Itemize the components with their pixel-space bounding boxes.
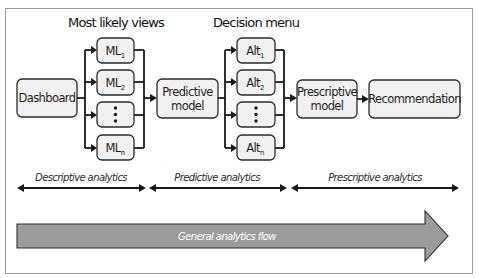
alt-option-1: Alt1 bbox=[237, 38, 275, 63]
alt-option-2-label: Alt bbox=[246, 76, 261, 90]
ml-view-2-label: ML bbox=[106, 76, 122, 90]
dashboard-node: Dashboard bbox=[17, 79, 77, 117]
predictive-model-label-line1: Predictive bbox=[162, 85, 213, 99]
ml-view-n-label: ML bbox=[106, 141, 122, 155]
prescriptive-model-node: Prescriptive model bbox=[297, 80, 358, 118]
ml-view-n: MLn bbox=[97, 135, 134, 160]
recommendation-node: Recommendation bbox=[368, 80, 461, 118]
ml-view-1-label: ML bbox=[106, 44, 122, 58]
predictive-model-label-line2: model bbox=[171, 99, 204, 113]
phase-label-descriptive: Descriptive analytics bbox=[35, 172, 127, 183]
predictive-model-node: Predictive model bbox=[157, 79, 218, 118]
alt-option-2: Alt2 bbox=[237, 70, 275, 95]
ml-view-1: ML1 bbox=[97, 38, 134, 63]
dashboard-label: Dashboard bbox=[19, 91, 76, 105]
general-analytics-flow-label: General analytics flow bbox=[178, 231, 277, 242]
heading-decision-menu: Decision menu bbox=[213, 15, 300, 30]
prescriptive-model-label-line1: Prescriptive bbox=[297, 85, 358, 99]
alt-option-n-label: Alt bbox=[246, 141, 261, 155]
heading-most-likely-views: Most likely views bbox=[68, 15, 165, 30]
recommendation-label: Recommendation bbox=[368, 92, 461, 106]
ml-view-ellipsis bbox=[97, 102, 134, 127]
alt-option-ellipsis bbox=[237, 102, 275, 127]
phase-label-predictive: Predictive analytics bbox=[174, 172, 260, 183]
alt-option-1-label: Alt bbox=[246, 44, 261, 58]
ml-view-2: ML2 bbox=[97, 70, 134, 95]
alt-option-n: Altn bbox=[237, 135, 275, 160]
prescriptive-model-label-line2: model bbox=[311, 99, 344, 113]
ellipsis-icon bbox=[114, 106, 117, 109]
phase-label-prescriptive: Prescriptive analytics bbox=[328, 172, 422, 183]
analytics-flow-diagram: Most likely views Decision menu Dashboar… bbox=[0, 0, 479, 278]
ellipsis-icon bbox=[254, 106, 257, 109]
